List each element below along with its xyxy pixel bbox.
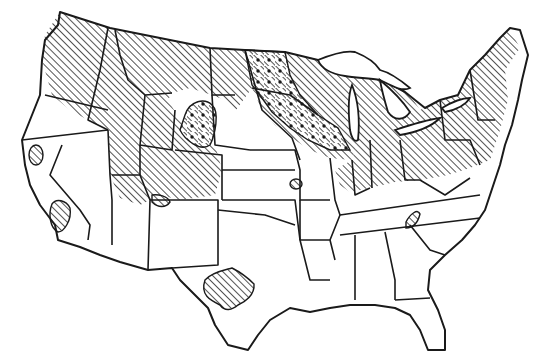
patch-central-texas — [204, 268, 254, 310]
hatch-northwest — [42, 12, 252, 205]
us-distribution-map — [0, 0, 535, 361]
patch-northern-california — [29, 145, 43, 165]
patch-southern-california — [50, 201, 70, 232]
